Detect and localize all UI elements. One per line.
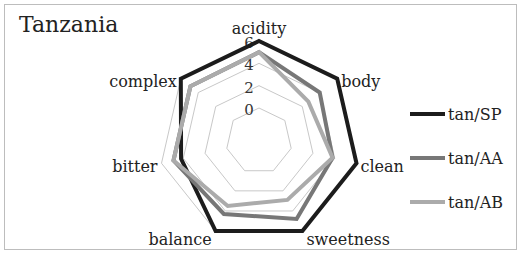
axis-label-complex: complex — [109, 72, 177, 91]
axis-label-clean: clean — [360, 157, 403, 176]
legend-item: tan/AA — [410, 136, 503, 180]
axis-label-body: body — [341, 72, 380, 91]
legend-swatch — [410, 112, 445, 116]
legend-label: tan/AB — [448, 193, 503, 212]
legend-item: tan/AB — [410, 180, 503, 224]
axis-label-bitter: bitter — [112, 157, 158, 176]
tick-label: 0 — [244, 101, 254, 119]
axis-label-sweetness: sweetness — [306, 230, 389, 249]
legend: tan/SPtan/AAtan/AB — [410, 92, 503, 224]
grid-ring-0 — [227, 108, 291, 171]
legend-item: tan/SP — [410, 92, 503, 136]
legend-label: tan/SP — [448, 105, 501, 124]
axis-label-acidity: acidity — [232, 19, 286, 38]
series-tan-AB — [173, 52, 332, 206]
legend-swatch — [410, 156, 445, 160]
legend-swatch — [410, 200, 445, 204]
axis-label-balance: balance — [148, 230, 211, 249]
tick-label: 2 — [244, 79, 254, 97]
grid-ring-2 — [205, 86, 313, 191]
legend-label: tan/AA — [448, 149, 503, 168]
